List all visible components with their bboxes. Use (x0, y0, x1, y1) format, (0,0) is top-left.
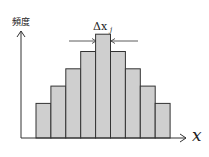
histogram-bar (96, 34, 111, 138)
histogram-bar (51, 86, 66, 138)
histogram-bar (111, 52, 126, 139)
y-axis-label: 頻度 (12, 16, 30, 27)
histogram-bar (155, 103, 170, 138)
histogram-bar (125, 69, 140, 138)
histogram-bar (66, 69, 81, 138)
delta-subscript: j (108, 26, 113, 34)
histogram-bar (36, 103, 51, 138)
x-axis-label: x (192, 125, 202, 145)
histogram-bar (140, 86, 155, 138)
histogram-bars (36, 34, 170, 138)
histogram-bar (81, 52, 96, 139)
delta-label: Δx (93, 20, 108, 33)
histogram-diagram: 頻度 x Δx j (0, 0, 209, 157)
